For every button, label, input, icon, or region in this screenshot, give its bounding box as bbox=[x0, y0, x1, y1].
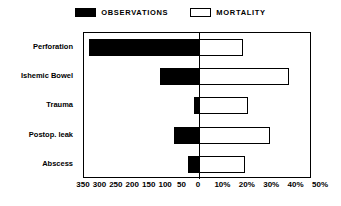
x-axis-tick-right-20: 20% bbox=[239, 181, 255, 189]
y-axis-label-ishemic-bowel: Ishemic Bowel bbox=[21, 72, 73, 80]
bar-row-trauma bbox=[84, 91, 312, 120]
x-axis-tick-left-350: 350 bbox=[76, 181, 89, 189]
bar-row-abscess bbox=[84, 150, 312, 179]
x-axis-tick-labels: 35030025020015010050010%20%30%40%50% bbox=[0, 181, 341, 195]
mortality-bar-perforation bbox=[199, 39, 243, 56]
x-axis-tick-left-300: 300 bbox=[93, 181, 106, 189]
legend-entry-mortality: MORTALITY bbox=[190, 8, 266, 17]
legend-label-observations: OBSERVATIONS bbox=[101, 9, 168, 17]
y-axis-category-labels: Perforation Ishemic Bowel Trauma Postop.… bbox=[0, 32, 78, 178]
chart-figure: OBSERVATIONS MORTALITY Perforation Ishem… bbox=[0, 0, 341, 206]
bar-row-ishemic-bowel bbox=[84, 62, 312, 91]
chart-legend: OBSERVATIONS MORTALITY bbox=[0, 8, 341, 17]
y-axis-label-postop-leak: Postop. leak bbox=[29, 131, 73, 139]
x-axis-tick-right-0: 0 bbox=[196, 181, 200, 189]
x-axis-tick-left-50: 50 bbox=[177, 181, 186, 189]
bar-row-postop-leak bbox=[84, 121, 312, 150]
mortality-bar-ishemic-bowel bbox=[199, 68, 289, 85]
mortality-bar-trauma bbox=[199, 97, 248, 114]
x-axis-tick-right-40: 40% bbox=[288, 181, 304, 189]
x-axis-tick-right-10: 10% bbox=[214, 181, 230, 189]
x-axis-tick-left-200: 200 bbox=[126, 181, 139, 189]
y-axis-label-perforation: Perforation bbox=[33, 43, 73, 51]
legend-label-mortality: MORTALITY bbox=[216, 9, 266, 17]
plot-area bbox=[83, 32, 311, 178]
observations-bar-abscess bbox=[188, 156, 200, 173]
observations-bar-ishemic-bowel bbox=[160, 68, 199, 85]
y-axis-label-abscess: Abscess bbox=[42, 160, 73, 168]
mortality-bar-postop-leak bbox=[199, 127, 270, 144]
hollow-square-swatch-icon bbox=[190, 8, 211, 17]
filled-square-swatch-icon bbox=[75, 8, 96, 17]
zero-axis-line bbox=[199, 33, 200, 179]
observations-bar-perforation bbox=[89, 39, 199, 56]
legend-entry-observations: OBSERVATIONS bbox=[75, 8, 168, 17]
y-axis-label-trauma: Trauma bbox=[46, 101, 73, 109]
bars-layer bbox=[84, 33, 312, 179]
x-axis-tick-right-30: 30% bbox=[263, 181, 279, 189]
bar-row-perforation bbox=[84, 33, 312, 62]
x-axis-tick-left-100: 100 bbox=[158, 181, 171, 189]
x-axis-tick-right-50: 50% bbox=[312, 181, 328, 189]
x-axis-tick-left-150: 150 bbox=[142, 181, 155, 189]
x-axis-tick-left-250: 250 bbox=[109, 181, 122, 189]
mortality-bar-abscess bbox=[199, 156, 245, 173]
observations-bar-postop-leak bbox=[174, 127, 199, 144]
